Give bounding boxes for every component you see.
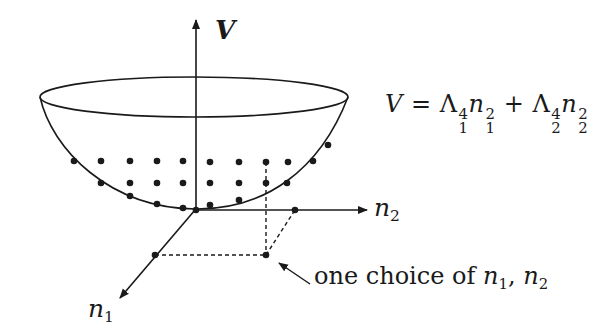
lambda2-sub: 2 [551, 121, 561, 135]
annotation-arrow [279, 263, 310, 284]
bowl-surface-outline [40, 97, 348, 209]
lambda2: Λ [532, 90, 550, 118]
formula-equals: = [411, 90, 432, 118]
annotation-text: one choice of [314, 262, 483, 290]
n2-term-sub: 2 [578, 121, 588, 135]
n2-var: n [374, 193, 390, 222]
lattice-points [71, 142, 332, 259]
bowl-rim [40, 77, 348, 117]
n1-var: n [88, 294, 104, 323]
lambda2-indices: 42 [551, 107, 561, 135]
lambda1-sub: 1 [459, 121, 469, 135]
potential-formula: V = Λ41n21 + Λ42n22 [385, 90, 588, 135]
annotation-var2-sub: 2 [539, 275, 548, 293]
n1-term-var: n [469, 90, 485, 118]
n1-sub: 1 [104, 308, 114, 326]
v-axis-label: V [215, 15, 235, 45]
n2-sub: 2 [390, 207, 400, 225]
n2-term-indices: 22 [578, 107, 588, 135]
paraboloid-potential-diagram: V n2 n1 V = Λ41n21 + Λ42n22 one choice o… [0, 0, 601, 330]
n1-term-sub: 1 [486, 121, 496, 135]
formula-lhs: V [385, 90, 403, 118]
n2-term-var: n [561, 90, 577, 118]
lambda1-indices: 41 [459, 107, 469, 135]
annotation-var1: n [483, 262, 498, 290]
annotation-sep: , [508, 262, 523, 290]
formula-term2: Λ42n22 [532, 90, 588, 118]
annotation-var1-sub: 1 [498, 275, 507, 293]
annotation-var2: n [523, 262, 538, 290]
formula-term1: Λ41n21 [440, 90, 496, 118]
choice-annotation: one choice of n1, n2 [314, 262, 548, 293]
n1-axis-label: n1 [88, 294, 114, 326]
lambda1: Λ [440, 90, 458, 118]
formula-plus: + [504, 90, 525, 118]
n2-axis-label: n2 [374, 193, 400, 225]
n1-term-indices: 21 [486, 107, 496, 135]
